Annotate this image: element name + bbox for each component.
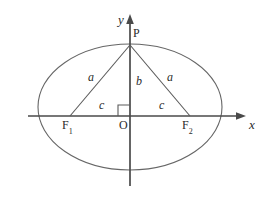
segment-label-c-left: c (99, 99, 104, 111)
segment-label-a-left: a (88, 71, 94, 83)
figure-canvas (0, 0, 263, 200)
segment-label-c-right: c (159, 99, 164, 111)
point-label-f2: F2 (182, 119, 193, 134)
segment-label-b: b (136, 75, 142, 87)
f1-letter: F (62, 118, 69, 132)
y-axis-label: y (118, 13, 124, 26)
segment-label-a-right: a (167, 71, 173, 83)
f2-letter: F (182, 118, 189, 132)
y-axis-arrowhead (126, 14, 134, 24)
x-axis-label: x (249, 118, 255, 131)
f1-subscript: 1 (69, 127, 73, 136)
point-label-f1: F1 (62, 119, 73, 134)
point-label-origin: O (119, 119, 128, 131)
f2-subscript: 2 (189, 127, 193, 136)
x-axis-arrowhead (236, 112, 246, 120)
right-angle-marker (118, 105, 130, 116)
ellipse-foci-figure: y x P O F1 F2 a a b c c (0, 0, 263, 200)
point-label-p: P (133, 27, 140, 39)
